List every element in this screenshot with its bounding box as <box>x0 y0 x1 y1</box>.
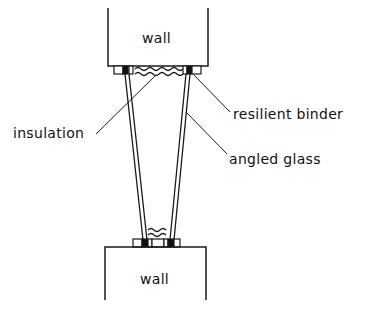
resilient-binder-leader <box>194 75 230 112</box>
resilient-binder-label: resilient binder <box>233 107 343 121</box>
right-glass-pane <box>170 74 190 240</box>
angled-glass-leader <box>186 112 227 154</box>
insulation-label: insulation <box>13 126 84 140</box>
leader-lines <box>96 75 230 154</box>
top-insulation <box>135 68 183 76</box>
left-glass-pane <box>125 74 147 240</box>
bottom-insulation <box>148 229 166 237</box>
insulation-leader <box>96 76 155 134</box>
bottom-resilient-binder-blocks <box>133 239 180 247</box>
bottom-wall-label: wall <box>140 272 169 286</box>
angled-glass-label: angled glass <box>229 152 321 166</box>
top-wall-label: wall <box>142 31 171 45</box>
